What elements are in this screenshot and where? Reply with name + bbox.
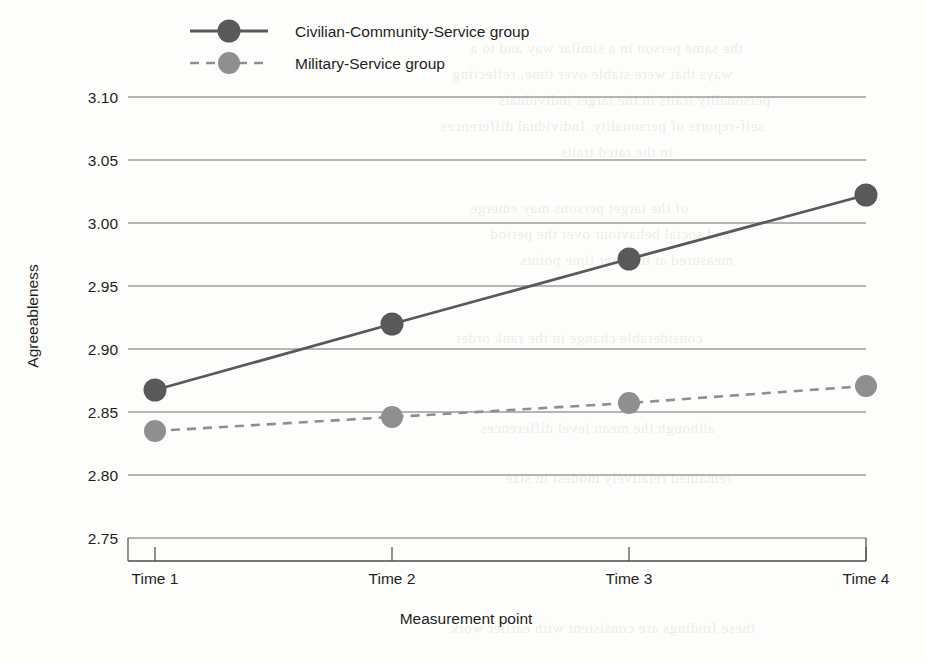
data-point-military-time-3 [618,392,640,414]
data-point-civilian-time-3 [618,248,641,271]
data-point-military-time-2 [381,406,403,428]
y-axis-title: Agreeableness [24,264,41,368]
series-civilian-community-service-group [144,184,878,402]
y-tick-label: 2.85 [88,404,118,421]
x-axis-title: Measurement point [400,610,533,627]
series-military-service-group [144,375,877,442]
series-line-civilian [155,195,866,390]
x-tick-label: Time 4 [843,570,890,587]
data-point-civilian-time-2 [381,313,404,336]
y-tick-label: 2.80 [88,467,119,484]
legend-marker-military [218,52,240,74]
x-tick-label: Time 2 [369,570,416,587]
data-point-civilian-time-4 [855,184,878,207]
figure-container: the same person in a similar way and to … [0,0,926,662]
x-tick-label: Time 3 [606,570,653,587]
data-point-military-time-4 [855,375,877,397]
chart-legend: Civilian-Community-Service group Militar… [190,20,529,75]
data-point-civilian-time-1 [144,379,167,402]
y-tick-label: 2.75 [88,530,118,547]
data-point-military-time-1 [144,420,166,442]
y-tick-label: 2.95 [88,278,118,295]
gridlines [128,97,866,538]
line-chart: 3.10 3.05 3.00 2.95 2.90 2.85 2.80 2.75 … [0,0,926,662]
y-tick-label: 2.90 [88,341,119,358]
y-tick-labels: 3.10 3.05 3.00 2.95 2.90 2.85 2.80 2.75 [88,89,119,547]
y-tick-label: 3.10 [88,89,119,106]
x-axis [128,538,866,561]
y-tick-label: 3.00 [88,215,119,232]
x-tick-label: Time 1 [132,570,179,587]
legend-item-military-service-group: Military-Service group [190,52,445,74]
y-tick-label: 3.05 [88,152,118,169]
legend-marker-civilian [218,20,241,43]
chart-svg: 3.10 3.05 3.00 2.95 2.90 2.85 2.80 2.75 … [0,0,926,662]
legend-item-civilian-community-service-group: Civilian-Community-Service group [190,20,529,43]
legend-label-civilian: Civilian-Community-Service group [295,23,529,40]
x-tick-labels: Time 1 Time 2 Time 3 Time 4 [132,570,890,587]
legend-label-military: Military-Service group [295,55,445,72]
series-line-military [155,386,866,431]
